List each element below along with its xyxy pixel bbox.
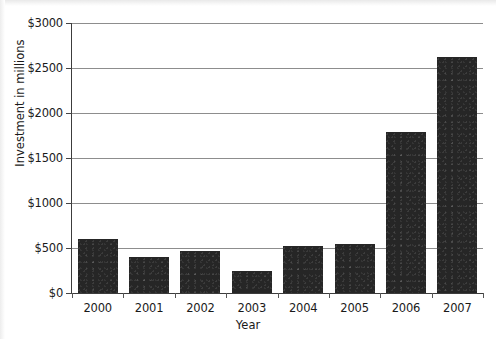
bar: [335, 244, 375, 294]
x-axis-tick: [72, 293, 73, 298]
x-axis-tick: [123, 293, 124, 298]
bars-group: [72, 23, 483, 293]
x-axis-tick-label: 2001: [135, 301, 163, 315]
x-axis-tick: [432, 293, 433, 298]
y-axis-tick-label: $2500: [27, 61, 63, 75]
y-axis-tick-label: $1000: [27, 196, 63, 210]
x-axis-tick: [175, 293, 176, 298]
y-axis-tick-label: $0: [49, 286, 63, 300]
x-axis-tick-label: 2003: [238, 301, 266, 315]
bar-chart-figure: Investment in millions $0$500$1000$1500$…: [0, 0, 496, 339]
scan-edge-shading-left: [0, 0, 5, 339]
x-axis-tick-label: 2002: [186, 301, 214, 315]
bar: [180, 251, 220, 293]
x-axis-tick: [380, 293, 381, 298]
x-axis-tick-label: 2007: [443, 301, 471, 315]
x-axis-tick: [278, 293, 279, 298]
bar: [129, 257, 169, 293]
x-axis-tick: [483, 293, 484, 298]
x-axis-tick-label: 2006: [392, 301, 420, 315]
x-axis-tick: [226, 293, 227, 298]
plot-area: $0$500$1000$1500$2000$2500$3000 20002001…: [71, 23, 483, 294]
bar: [232, 271, 272, 294]
y-axis-title: Investment in millions: [13, 3, 27, 203]
y-axis-tick-label: $2000: [27, 106, 63, 120]
y-axis-tick-label: $1500: [27, 151, 63, 165]
bar: [437, 57, 477, 293]
scan-edge-shading-top: [0, 0, 496, 6]
x-axis-tick-label: 2000: [83, 301, 111, 315]
bar: [386, 132, 426, 293]
x-axis-tick-label: 2005: [340, 301, 368, 315]
bar: [78, 239, 118, 293]
x-axis-title: Year: [0, 318, 496, 332]
y-axis-tick-label: $3000: [27, 16, 63, 30]
x-axis-tick-label: 2004: [289, 301, 317, 315]
y-axis-tick-label: $500: [35, 241, 63, 255]
x-axis-tick: [329, 293, 330, 298]
bar: [283, 246, 323, 293]
